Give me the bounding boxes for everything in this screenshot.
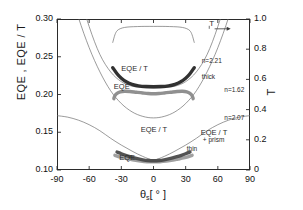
x-axis-tick-label: -60 (72, 174, 106, 184)
annotation-eqe-upper: EQE (114, 83, 130, 92)
y-axis-right-tick-label: 0.6 (254, 73, 286, 83)
x-axis-tick-label: 30 (169, 174, 203, 184)
annotation-n221: n=2.21 (202, 57, 222, 64)
y-axis-right-tick-label: 0.8 (254, 43, 286, 53)
figure-chart-eqe-vs-angle: EQE , EQE / T T θs[ ° ] 0.300.250.200.15… (0, 0, 303, 210)
annotation-n207: n=2.07 (224, 114, 244, 121)
y-axis-left-tick-label: 0.25 (21, 51, 53, 61)
x-axis-tick-label: -30 (104, 174, 138, 184)
t-axis-arrow (215, 27, 231, 31)
series-path (114, 91, 193, 98)
series-path (57, 0, 250, 88)
annotation-eqe-lower: EQE (119, 154, 135, 163)
y-axis-left-tick-label: 0.15 (21, 126, 53, 136)
annotation-eqe-over-t-upper: EQE / T (121, 65, 148, 74)
y-axis-right-tick-label: 0.2 (254, 134, 286, 144)
y-axis-right-tick-label: 1.0 (254, 13, 286, 23)
annotation-thin: thin (187, 145, 197, 152)
x-axis-tick-label: 90 (233, 174, 267, 184)
series-path (113, 26, 194, 42)
x-axis-tick-label: 60 (201, 174, 235, 184)
annotation-t-curve-label: T (209, 19, 214, 28)
y-axis-right-tick-label: 0.4 (254, 104, 286, 114)
annotation-thick: thick (202, 73, 215, 80)
y-axis-right-tick-label: 0 (254, 164, 286, 174)
x-axis-tick-label: 0 (137, 174, 171, 184)
x-axis-tick-label: -90 (40, 174, 74, 184)
y-axis-left-tick-label: 0.10 (21, 164, 53, 174)
y-axis-left-tick-label: 0.20 (21, 89, 53, 99)
annotation-prism: + prism (203, 136, 225, 143)
y-axis-left-tick-label: 0.30 (21, 13, 53, 23)
annotation-n162: n=1.62 (224, 86, 244, 93)
annotation-eqe-over-t-lower: EQE / T (141, 126, 168, 135)
